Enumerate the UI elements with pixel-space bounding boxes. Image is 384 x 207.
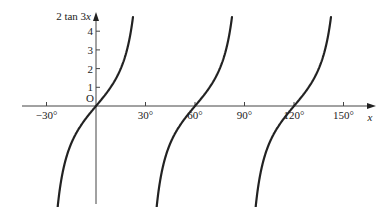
x-tick-label: 90° — [237, 109, 252, 121]
curve-branch-1 — [58, 17, 133, 207]
x-tick-label: 120° — [284, 109, 305, 121]
x-axis-arrow-icon — [367, 103, 376, 109]
axes — [22, 12, 376, 204]
y-axis-arrow-icon — [93, 12, 99, 21]
x-tick-label: −30° — [36, 109, 58, 121]
y-tick-label: 3 — [88, 44, 94, 56]
y-tick-label: 2 — [88, 63, 94, 75]
x-axis-label: x — [367, 111, 373, 123]
x-tick-label: 150° — [333, 109, 354, 121]
chart: −30°30°60°90°120°150°1234O2 tan 3xx — [0, 0, 384, 207]
x-tick-label: 60° — [187, 109, 202, 121]
plot-area: −30°30°60°90°120°150°1234O2 tan 3xx — [0, 0, 384, 207]
y-tick-label: 4 — [88, 25, 94, 37]
origin-label: O — [86, 92, 94, 104]
x-tick-label: 30° — [138, 109, 153, 121]
y-axis-label: 2 tan 3x — [56, 10, 91, 22]
